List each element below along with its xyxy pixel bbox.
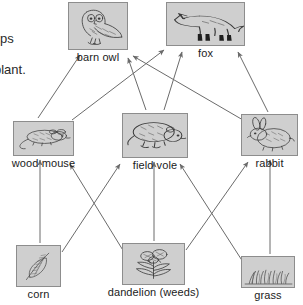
margin-text-fragment-2: plant.	[0, 63, 26, 77]
node-box-grass[interactable]	[241, 256, 295, 288]
grass-illustration	[242, 257, 294, 287]
food-web-diagram: barn owlfoxwood mousefield volerabbitcor…	[0, 0, 303, 305]
margin-text-fragment-1: ps	[0, 32, 14, 46]
node-label-grass: grass	[254, 289, 281, 301]
node-grass: grass	[0, 0, 303, 305]
